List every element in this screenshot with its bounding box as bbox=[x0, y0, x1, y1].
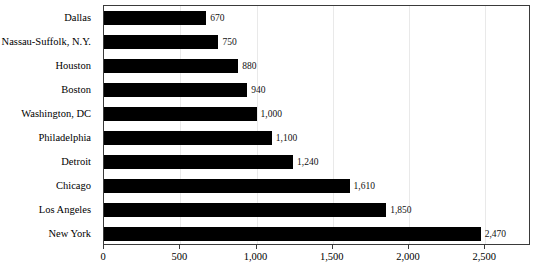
axis-tick-label: 1,500 bbox=[320, 250, 344, 263]
bar-value-label: 750 bbox=[222, 35, 236, 49]
category-label: New York bbox=[0, 227, 91, 241]
category-label: Nassau-Suffolk, N.Y. bbox=[0, 35, 91, 49]
axis-tick-label: 1,000 bbox=[244, 250, 268, 263]
bar bbox=[104, 35, 218, 49]
bar-value-label: 880 bbox=[242, 59, 256, 73]
bars-layer: 6707508809401,0001,1001,2401,6101,8502,4… bbox=[104, 6, 529, 244]
bar bbox=[104, 203, 386, 217]
bar-row: 1,000 bbox=[104, 107, 529, 121]
category-label: Houston bbox=[0, 59, 91, 73]
axis-tick-label: 0 bbox=[100, 250, 105, 263]
bar bbox=[104, 227, 481, 241]
bar-value-label: 940 bbox=[251, 83, 265, 97]
bar bbox=[104, 107, 257, 121]
axis-tick bbox=[256, 245, 257, 249]
bar-row: 1,100 bbox=[104, 131, 529, 145]
category-label: Boston bbox=[0, 83, 91, 97]
axis-tick bbox=[179, 245, 180, 249]
bar-row: 940 bbox=[104, 83, 529, 97]
category-label: Washington, DC bbox=[0, 107, 91, 121]
bar bbox=[104, 155, 293, 169]
bar bbox=[104, 131, 272, 145]
value-axis: 05001,0001,5002,0002,500 bbox=[103, 245, 530, 265]
bar-row: 1,850 bbox=[104, 203, 529, 217]
axis-tick bbox=[408, 245, 409, 249]
axis-tick bbox=[484, 245, 485, 249]
category-axis: DallasNassau-Suffolk, N.Y.HoustonBostonW… bbox=[0, 5, 97, 245]
axis-tick-label: 2,000 bbox=[396, 250, 420, 263]
bar-row: 1,240 bbox=[104, 155, 529, 169]
bar bbox=[104, 59, 238, 73]
bar-value-label: 1,240 bbox=[297, 155, 318, 169]
axis-tick-label: 2,500 bbox=[472, 250, 496, 263]
bar-row: 2,470 bbox=[104, 227, 529, 241]
bar-value-label: 1,000 bbox=[261, 107, 282, 121]
category-label: Chicago bbox=[0, 179, 91, 193]
bar-value-label: 1,850 bbox=[390, 203, 411, 217]
category-label: Philadelphia bbox=[0, 131, 91, 145]
bar-row: 750 bbox=[104, 35, 529, 49]
category-label: Dallas bbox=[0, 11, 91, 25]
category-label: Los Angeles bbox=[0, 203, 91, 217]
bar-row: 670 bbox=[104, 11, 529, 25]
bar bbox=[104, 11, 206, 25]
bar-value-label: 1,610 bbox=[354, 179, 375, 193]
bar-value-label: 1,100 bbox=[276, 131, 297, 145]
category-label: Detroit bbox=[0, 155, 91, 169]
bar-chart: DallasNassau-Suffolk, N.Y.HoustonBostonW… bbox=[0, 0, 541, 265]
plot-area: 6707508809401,0001,1001,2401,6101,8502,4… bbox=[103, 5, 530, 245]
bar bbox=[104, 179, 350, 193]
axis-tick-label: 500 bbox=[171, 250, 187, 263]
axis-tick bbox=[103, 245, 104, 249]
bar bbox=[104, 83, 247, 97]
bar-value-label: 670 bbox=[210, 11, 224, 25]
bar-value-label: 2,470 bbox=[485, 227, 506, 241]
bar-row: 1,610 bbox=[104, 179, 529, 193]
axis-tick bbox=[332, 245, 333, 249]
bar-row: 880 bbox=[104, 59, 529, 73]
